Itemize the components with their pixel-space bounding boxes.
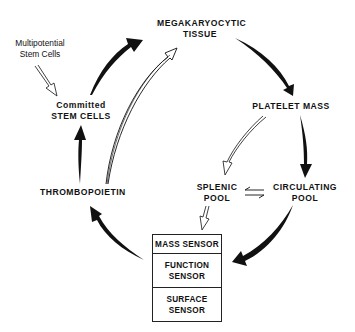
arrow-platelet-to-splenic: [223, 116, 266, 175]
circulating-line1: CIRCULATING: [270, 182, 340, 193]
multipotential-line1: Multipotential: [6, 38, 74, 49]
megakaryocytic-line1: MEGAKARYOCYTIC: [157, 18, 243, 29]
circulating-line2: POOL: [270, 193, 340, 204]
surface-sensor-cell: SURFACE SENSOR: [153, 288, 221, 321]
committed-line2: STEM CELLS: [46, 111, 116, 122]
label-thrombopoietin: THROMBOPOIETIN: [40, 187, 124, 198]
arrow-platelet-to-circulating: [300, 115, 312, 178]
function-sensor-cell: FUNCTION SENSOR: [153, 254, 221, 288]
function-sensor-line2: SENSOR: [169, 271, 205, 282]
mass-sensor-cell: MASS SENSOR: [153, 235, 221, 254]
arrow-committed-to-megakaryocytic: [90, 38, 143, 95]
function-sensor-line1: FUNCTION: [165, 260, 210, 271]
thrombopoietin-line1: THROMBOPOIETIN: [40, 187, 124, 198]
label-splenic-pool: SPLENIC POOL: [192, 182, 242, 204]
sensor-box: MASS SENSOR FUNCTION SENSOR SURFACE SENS…: [152, 234, 222, 322]
multipotential-line2: Stem Cells: [6, 49, 74, 60]
arrow-megakaryocytic-to-platelet: [235, 38, 294, 96]
arrow-splenic-to-sensor: [200, 206, 209, 230]
arrow-thrombopoietin-to-megakaryocytic-edge: [107, 55, 170, 184]
committed-line1: Committed: [46, 100, 116, 111]
label-megakaryocytic-tissue: MEGAKARYOCYTIC TISSUE: [157, 18, 243, 40]
megakaryocytic-line2: TISSUE: [157, 29, 243, 40]
equilibrium-arrow-right: [245, 195, 264, 198]
arrow-thrombopoietin-to-committed: [74, 125, 86, 184]
arrow-circulating-to-sensor: [232, 205, 293, 266]
label-committed-stem-cells: Committed STEM CELLS: [46, 100, 116, 122]
arrow-thrombopoietin-to-megakaryocytic: [106, 48, 177, 184]
surface-sensor-line2: SENSOR: [169, 305, 205, 316]
surface-sensor-line1: SURFACE: [166, 294, 207, 305]
label-multipotential-stem-cells: Multipotential Stem Cells: [6, 38, 74, 60]
arrow-multipotential-to-committed: [35, 65, 57, 96]
label-platelet-mass: PLATELET MASS: [250, 101, 332, 112]
arrow-sensor-to-thrombopoietin: [90, 206, 144, 260]
equilibrium-arrow-left: [245, 187, 264, 190]
splenic-line2: POOL: [192, 193, 242, 204]
label-circulating-pool: CIRCULATING POOL: [270, 182, 340, 204]
platelet-mass-line1: PLATELET MASS: [250, 101, 332, 112]
splenic-line1: SPLENIC: [192, 182, 242, 193]
mass-sensor-text: MASS SENSOR: [155, 239, 219, 250]
